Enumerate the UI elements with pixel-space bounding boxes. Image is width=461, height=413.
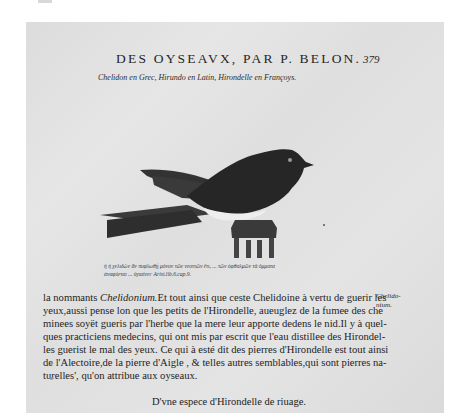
margin-note: Chelido- nium. <box>376 292 401 310</box>
body-line: minees soyët gueris par l'herbe que la m… <box>43 317 373 330</box>
scan-corner-mark <box>38 0 52 3</box>
running-head: DES OYSEAVX, PAR P. BELON. <box>116 51 361 67</box>
book-page: DES OYSEAVX, PAR P. BELON. 379 Chelidon … <box>26 22 444 413</box>
section-heading: D'vne espece d'Hirondelle de riuage. <box>152 396 306 407</box>
greek-line: ἀναφύεται ... ὑγιαίνει· Arist.lib.6.cap.… <box>104 270 404 278</box>
bird-woodcut-icon <box>92 110 342 260</box>
illustration-caption: Chelidon en Grec, Hirundo en Latin, Hiro… <box>98 73 296 82</box>
body-line: ques practiciens medecins, qui ont mis p… <box>43 330 373 343</box>
body-paragraph: la nommants Chelidonium.Et tout ainsi qu… <box>43 291 373 382</box>
stain-mark <box>50 362 53 365</box>
body-line: turelles', qu'on attribue aux oyseaux. <box>43 369 373 382</box>
stain-mark <box>50 377 53 380</box>
greek-quotation: ἡ ἡ χελιδὼν ἂν πυφλωθῇ μόνον τῶν νεοττῶν… <box>104 262 404 278</box>
body-line: la nommants Chelidonium.Et tout ainsi qu… <box>43 291 373 304</box>
page-number: 379 <box>363 53 380 65</box>
body-line: yeux,aussi pense lon que les petits de l… <box>43 304 373 317</box>
body-line: de l'Alectoire,de la pierre d'Aigle , & … <box>43 356 373 369</box>
greek-line: ἡ ἡ χελιδὼν ἂν πυφλωθῇ μόνον τῶν νεοττῶν… <box>104 262 404 270</box>
body-line: les guerist le mal des yeux. Ce qui à es… <box>43 343 373 356</box>
